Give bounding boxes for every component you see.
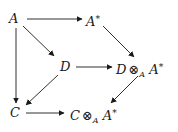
node-a: A bbox=[9, 12, 18, 26]
arrow-astar-to-dtensor bbox=[103, 26, 134, 57]
node-c-tensor-left: C bbox=[70, 108, 80, 123]
node-d-tensor-sub: A bbox=[139, 70, 145, 79]
node-c-tensor-right: A bbox=[103, 108, 112, 123]
node-c-tensor-sub: A bbox=[93, 116, 99, 125]
node-c: C bbox=[10, 106, 20, 120]
node-a-star-base: A bbox=[86, 14, 95, 29]
tensor-icon: ⊗ bbox=[128, 62, 139, 77]
node-d: D bbox=[60, 60, 70, 74]
node-a-label: A bbox=[9, 11, 18, 26]
arrow-d-to-c bbox=[26, 75, 58, 105]
node-a-star-sup: * bbox=[95, 14, 100, 24]
arrow-a-to-d bbox=[23, 26, 54, 56]
node-c-tensor-sup: * bbox=[112, 108, 117, 118]
node-d-label: D bbox=[60, 59, 70, 74]
node-d-tensor-sup: * bbox=[159, 62, 164, 72]
node-c-label: C bbox=[10, 105, 20, 120]
node-d-tensor-astar: D⊗A A* bbox=[116, 60, 163, 82]
tensor-icon: ⊗ bbox=[82, 108, 93, 123]
node-d-tensor-left: D bbox=[116, 62, 126, 77]
node-a-star: A* bbox=[86, 12, 100, 29]
node-c-tensor-astar: C⊗A A* bbox=[70, 106, 117, 128]
node-d-tensor-right: A bbox=[149, 62, 158, 77]
